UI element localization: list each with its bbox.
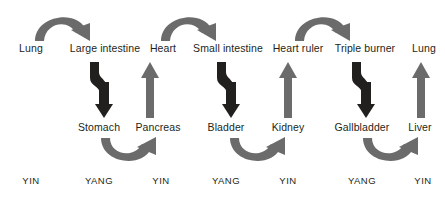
top-curved-arrow (156, 8, 222, 42)
ascending-straight-arrow (278, 62, 298, 118)
descending-zigzag-arrow (205, 62, 241, 118)
lower-organ-label: Bladder (208, 121, 245, 133)
bottom-curved-arrow (224, 136, 290, 170)
lower-organ-label: Kidney (272, 121, 305, 133)
descending-zigzag-arrow (78, 62, 114, 118)
ascending-straight-arrow (140, 62, 160, 118)
descending-zigzag-arrow (340, 62, 376, 118)
ascending-straight-arrow (411, 62, 431, 118)
yin-yang-label: YANG (212, 175, 240, 186)
upper-organ-label: Lung (19, 42, 43, 54)
yin-yang-label: YANG (348, 175, 376, 186)
bottom-curved-arrow (357, 136, 423, 170)
upper-organ-label: Triple burner (335, 42, 395, 54)
top-curved-arrow (290, 8, 356, 42)
yin-yang-label: YIN (279, 175, 296, 186)
meridian-cycle-diagram: LungLarge intestineHeartSmall intestineH… (0, 0, 445, 204)
lower-organ-label: Stomach (78, 121, 120, 133)
lower-organ-label: Liver (408, 121, 431, 133)
top-curved-arrow (30, 8, 96, 42)
upper-organ-label: Heart (150, 42, 176, 54)
upper-organ-label: Large intestine (70, 42, 140, 54)
lower-organ-label: Pancreas (135, 121, 180, 133)
yin-yang-label: YIN (22, 175, 39, 186)
yin-yang-label: YIN (152, 175, 169, 186)
upper-organ-label: Heart ruler (273, 42, 324, 54)
upper-organ-label: Small intestine (193, 42, 263, 54)
yin-yang-label: YIN (414, 175, 431, 186)
yin-yang-label: YANG (85, 175, 113, 186)
bottom-curved-arrow (95, 136, 161, 170)
lower-organ-label: Gallbladder (335, 121, 390, 133)
arrow-layer (0, 0, 445, 204)
upper-organ-label: Lung (412, 42, 436, 54)
